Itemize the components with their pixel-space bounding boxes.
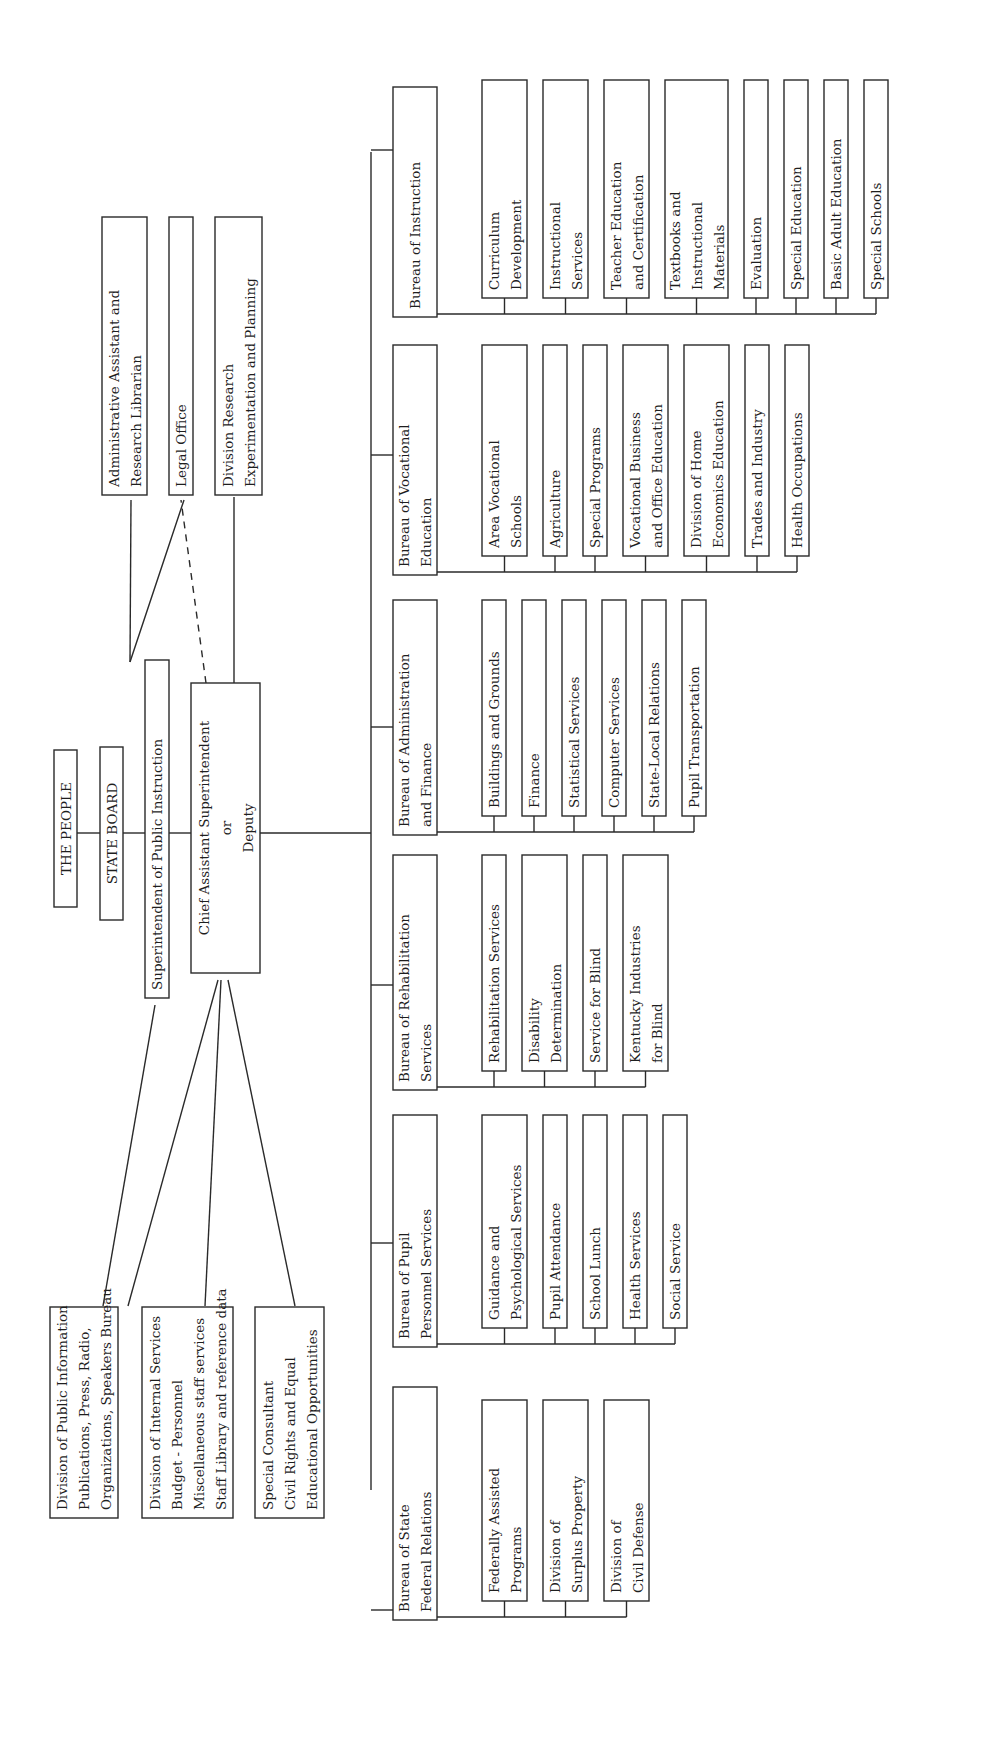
unit-box: Rehabilitation Services [482, 855, 506, 1071]
unit-box-label-line: Division of [547, 1519, 563, 1593]
unit-box-label-line: Trades and Industry [749, 409, 765, 548]
unit-box-label-line: Services [569, 232, 585, 290]
unit-box-label-line: Guidance and [486, 1225, 502, 1320]
legal-office-box-label-line: Legal Office [173, 404, 189, 487]
division-research-box-label-line: Division Research [220, 363, 236, 487]
chief-assistant-box: Chief Assistant SuperintendentorDeputy [191, 683, 260, 973]
public-info-box-label-line: Organizations, Speakers Bureau [98, 1288, 114, 1510]
unit-box: Division of HomeEconomics Education [684, 345, 729, 556]
unit-box-label-line: Finance [526, 753, 542, 808]
unit-box: Federally AssistedPrograms [482, 1400, 527, 1601]
unit-box: Health Occupations [785, 345, 809, 556]
unit-box-label-line: Basic Adult Education [828, 138, 844, 290]
admin-assistant-link [130, 500, 131, 662]
unit-box-label-line: Rehabilitation Services [486, 904, 502, 1063]
unit-box-label-line: Statistical Services [566, 676, 582, 808]
unit-box-label-line: Surplus Property [569, 1476, 585, 1593]
the-people-box: THE PEOPLE [54, 750, 77, 907]
unit-box: Agriculture [543, 345, 567, 556]
unit-box-label-line: Special Programs [587, 427, 603, 548]
internal-services-box-label-line: Miscellaneous staff services [191, 1318, 207, 1510]
unit-box: Buildings and Grounds [482, 600, 506, 816]
bureau-instruction-box: Bureau of Instruction [393, 87, 437, 317]
unit-box: Basic Adult Education [824, 80, 848, 298]
unit-box: Vocational Businessand Office Education [623, 345, 668, 556]
unit-box-label-line: Programs [508, 1526, 524, 1593]
bureau-vocational-box-label-line: Education [418, 497, 434, 567]
unit-box-label-line: Social Service [667, 1223, 683, 1320]
unit-box-label-line: Determination [548, 964, 564, 1063]
unit-box-label-line: Psychological Services [508, 1165, 524, 1320]
unit-box: Special Education [784, 80, 808, 298]
unit-box-label-line: Service for Blind [587, 947, 603, 1063]
state-board-box: STATE BOARD [100, 747, 123, 920]
internal-services-box-label-line: Budget - Personnel [169, 1380, 185, 1510]
the-people-box-label-line: THE PEOPLE [58, 782, 74, 875]
unit-box: Pupil Attendance [543, 1115, 567, 1328]
unit-box: School Lunch [583, 1115, 607, 1328]
bureau-rehab-box-label-line: Services [418, 1024, 434, 1082]
unit-box-label-line: Buildings and Grounds [486, 651, 502, 808]
internal-services-box-label-line: Staff Library and reference data [213, 1288, 229, 1510]
unit-box: Statistical Services [562, 600, 586, 816]
bureau-instruction-box-label-line: Bureau of Instruction [407, 162, 423, 309]
superintendent-box: Superintendent of Public Instruction [145, 660, 169, 998]
unit-box: Guidance andPsychological Services [482, 1115, 527, 1328]
bureau-rehab-box-label-line: Bureau of Rehabilitation [396, 914, 412, 1082]
unit-box: Kentucky Industriesfor Blind [623, 855, 668, 1071]
unit-box-label-line: Civil Defense [630, 1502, 646, 1593]
special-consultant-box-label-line: Educational Opportunities [304, 1329, 320, 1510]
unit-box: DisabilityDetermination [522, 855, 567, 1071]
bureau-pupil-box-label-line: Bureau of Pupil [396, 1232, 412, 1339]
unit-box-label-line: Schools [508, 495, 524, 548]
unit-box-label-line: Special Schools [868, 183, 884, 290]
unit-box-label-line: and Office Education [649, 404, 665, 548]
org-chart: THE PEOPLESTATE BOARDSuperintendent of P… [0, 0, 1002, 1743]
bureau-federal-box: Bureau of StateFederal Relations [393, 1387, 437, 1620]
unit-box: InstructionalServices [543, 80, 588, 298]
public-info-box: Division of Public InformationPublicatio… [50, 1288, 118, 1518]
unit-box: State-Local Relations [642, 600, 666, 816]
admin-assistant-box-label-line: Administrative Assistant and [106, 289, 122, 488]
superintendent-box-label-line: Superintendent of Public Instruction [149, 739, 165, 990]
chief-assistant-box-label-line: Chief Assistant Superintendent [196, 720, 212, 935]
unit-box-label-line: Disability [526, 998, 542, 1063]
unit-box-label-line: Health Services [627, 1211, 643, 1320]
special-consultant-box-label-line: Special Consultant [260, 1380, 276, 1510]
unit-box: Trades and Industry [745, 345, 769, 556]
unit-box: Division ofCivil Defense [604, 1400, 649, 1601]
chief-assistant-box-label-line: Deputy [240, 803, 256, 853]
division-research-box-label-line: Experimentation and Planning [242, 278, 258, 487]
unit-box-label-line: School Lunch [587, 1227, 603, 1320]
unit-box-label-line: Agriculture [547, 470, 563, 549]
bureau-pupil-box-label-line: Personnel Services [418, 1209, 434, 1339]
unit-box-label-line: Health Occupations [789, 412, 805, 548]
unit-box: Evaluation [744, 80, 768, 298]
unit-box-label-line: Materials [711, 225, 727, 290]
unit-box: Pupil Transportation [682, 600, 706, 816]
unit-box-label-line: Instructional [547, 202, 563, 290]
bureau-admin-finance-box: Bureau of Administrationand Finance [393, 600, 437, 835]
unit-box-label-line: Teacher Education [608, 161, 624, 290]
bureau-rehab-box: Bureau of RehabilitationServices [393, 855, 437, 1090]
internal-services-box: Division of Internal ServicesBudget - Pe… [142, 1288, 233, 1518]
bureau-vocational-box-label-line: Bureau of Vocational [396, 424, 412, 567]
unit-box-label-line: Pupil Attendance [547, 1203, 563, 1320]
unit-box-label-line: Federally Assisted [486, 1467, 502, 1593]
unit-box-label-line: Division of [608, 1519, 624, 1593]
unit-box: Teacher Educationand Certification [604, 80, 649, 298]
legal-office-box: Legal Office [169, 217, 193, 495]
unit-box: Special Programs [583, 345, 607, 556]
unit-box: Textbooks andInstructionalMaterials [665, 80, 728, 298]
bureau-admin-finance-box-label-line: Bureau of Administration [396, 653, 412, 827]
bureau-vocational-box: Bureau of VocationalEducation [393, 345, 437, 575]
state-board-box-label-line: STATE BOARD [104, 782, 120, 884]
unit-box-label-line: Pupil Transportation [686, 666, 702, 808]
public-info-box-label-line: Division of Public Information [54, 1305, 70, 1510]
unit-box-label-line: Development [508, 199, 524, 290]
legal-office-link-supt [130, 500, 184, 662]
unit-box: Social Service [663, 1115, 687, 1328]
bureau-federal-box-label-line: Bureau of State [396, 1504, 412, 1612]
internal-services-link [205, 980, 221, 1306]
admin-assistant-box: Administrative Assistant andResearch Lib… [102, 217, 147, 495]
